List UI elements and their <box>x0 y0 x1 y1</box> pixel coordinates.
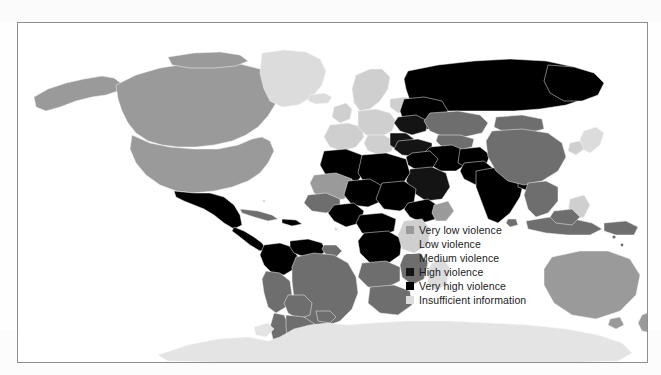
island-dot-pacific-2 <box>621 244 624 247</box>
violence-level-legend: Very low violence Low violence Medium vi… <box>406 223 556 307</box>
legend-item-low[interactable]: Low violence <box>406 237 556 251</box>
legend-swatch-medium <box>406 254 414 262</box>
legend-swatch-insufficient <box>406 296 414 304</box>
legend-item-high[interactable]: High violence <box>406 265 556 279</box>
legend-item-medium[interactable]: Medium violence <box>406 251 556 265</box>
world-map-svg[interactable]: .vlow{fill:#9a9a9a;} .low{fill:#cfcfcf;}… <box>18 23 647 362</box>
legend-label-insufficient: Insufficient information <box>419 293 526 307</box>
island-dot-pacific <box>612 235 615 238</box>
page-canvas: .vlow{fill:#9a9a9a;} .low{fill:#cfcfcf;}… <box>0 0 661 375</box>
island-dot-bahamas <box>263 200 266 203</box>
island-dot-atlantic <box>334 227 337 230</box>
legend-swatch-very-high <box>406 282 414 290</box>
legend-label-medium: Medium violence <box>419 251 499 265</box>
figure-frame: .vlow{fill:#9a9a9a;} .low{fill:#cfcfcf;}… <box>17 22 648 363</box>
legend-label-very-low: Very low violence <box>419 223 502 237</box>
legend-label-high: High violence <box>419 265 483 279</box>
legend-label-very-high: Very high violence <box>419 279 506 293</box>
legend-swatch-high <box>406 268 414 276</box>
legend-item-very-high[interactable]: Very high violence <box>406 279 556 293</box>
legend-swatch-low <box>406 240 414 248</box>
legend-swatch-very-low <box>406 226 414 234</box>
page-band-top <box>0 0 661 22</box>
legend-item-very-low[interactable]: Very low violence <box>406 223 556 237</box>
legend-label-low: Low violence <box>419 237 481 251</box>
legend-item-insufficient[interactable]: Insufficient information <box>406 293 556 307</box>
world-map[interactable]: .vlow{fill:#9a9a9a;} .low{fill:#cfcfcf;}… <box>18 23 647 362</box>
